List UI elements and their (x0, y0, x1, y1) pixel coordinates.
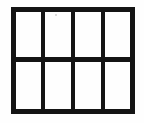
grid-drawing (0, 0, 144, 123)
figure-canvas: Rectangular frame divided into four colu… (0, 0, 144, 123)
scan-speck (55, 14, 57, 16)
